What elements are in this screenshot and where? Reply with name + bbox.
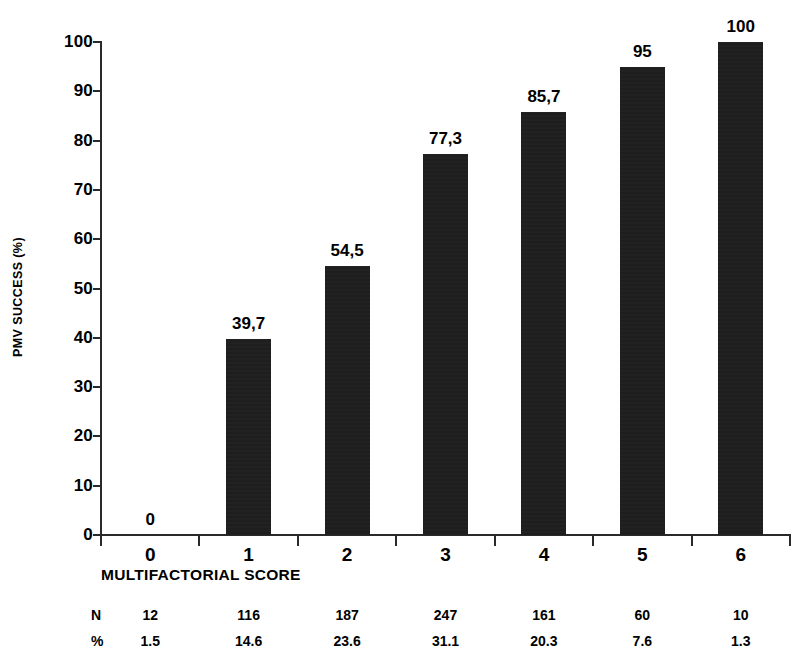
table-cell: 23.6 xyxy=(307,634,387,648)
y-axis-tick-mark xyxy=(93,140,101,142)
x-axis-tick-label: 1 xyxy=(209,545,289,564)
y-axis-tick-label-text: 20 xyxy=(47,427,93,444)
y-axis-tick-mark xyxy=(93,90,101,92)
bar xyxy=(718,42,763,535)
x-axis-tick-mark xyxy=(297,536,299,546)
y-axis-tick-mark xyxy=(93,435,101,437)
bar xyxy=(226,339,271,535)
y-axis-tick-mark xyxy=(93,41,101,43)
table-cell: 20.3 xyxy=(504,634,584,648)
y-axis-tick-label-text: 10 xyxy=(47,477,93,494)
table-row-label: % xyxy=(91,634,103,648)
table-cell: 60 xyxy=(602,608,682,622)
y-axis-tick-label-text: 60 xyxy=(47,230,93,247)
y-axis-tick-mark xyxy=(93,386,101,388)
bar xyxy=(620,67,665,535)
y-axis-tick-label-text: 70 xyxy=(47,181,93,198)
bar-value-label: 85,7 xyxy=(504,88,584,105)
y-axis-tick-label-text: 90 xyxy=(47,82,93,99)
y-axis-tick-label: 40 xyxy=(40,329,93,346)
table-cell: 31.1 xyxy=(406,634,486,648)
y-axis-tick-label-text: 100 xyxy=(47,33,93,50)
y-axis-tick-label: 60 xyxy=(40,230,93,247)
x-axis-tick-mark xyxy=(395,536,397,546)
bar-value-label: 39,7 xyxy=(209,315,289,332)
y-axis-tick-mark xyxy=(93,238,101,240)
y-axis-tick-label: 0 xyxy=(40,526,93,543)
x-axis-tick-label: 0 xyxy=(110,545,190,564)
table-cell: 187 xyxy=(307,608,387,622)
x-axis-tick-label: 4 xyxy=(504,545,584,564)
x-axis-tick-label: 2 xyxy=(307,545,387,564)
x-axis-tick-mark xyxy=(198,536,200,546)
y-axis-tick-label-text: 30 xyxy=(47,378,93,395)
bar-chart-figure: PMV SUCCESS (%) 0102030405060708090100 0… xyxy=(0,0,804,661)
y-axis-tick-label: 100 xyxy=(40,33,93,50)
table-cell: 1.5 xyxy=(110,634,190,648)
table-cell: 12 xyxy=(110,608,190,622)
y-axis-tick-mark xyxy=(93,189,101,191)
y-axis-tick-mark xyxy=(93,288,101,290)
bar xyxy=(521,112,566,535)
y-axis-tick-label-text: 50 xyxy=(47,280,93,297)
x-axis-title: MULTIFACTORIAL SCORE xyxy=(101,566,301,584)
bar-value-label: 100 xyxy=(701,18,781,35)
table-cell: 10 xyxy=(701,608,781,622)
table-cell: 116 xyxy=(209,608,289,622)
table-cell: 247 xyxy=(406,608,486,622)
x-axis-tick-mark xyxy=(592,536,594,546)
y-axis-tick-label: 50 xyxy=(40,280,93,297)
table-cell: 161 xyxy=(504,608,584,622)
x-axis-tick-label: 5 xyxy=(602,545,682,564)
y-axis-title: PMV SUCCESS (%) xyxy=(11,217,25,377)
y-axis-tick-mark xyxy=(93,337,101,339)
bar-value-label: 95 xyxy=(602,43,682,60)
x-axis-tick-mark xyxy=(691,536,693,546)
y-axis-tick-mark xyxy=(93,485,101,487)
table-cell: 14.6 xyxy=(209,634,289,648)
bar xyxy=(325,266,370,535)
y-axis-tick-label-text: 0 xyxy=(47,526,93,543)
bar-value-label: 0 xyxy=(110,511,190,528)
y-axis-tick-label: 30 xyxy=(40,378,93,395)
y-axis-tick-label: 90 xyxy=(40,82,93,99)
x-axis-tick-mark xyxy=(100,536,102,546)
x-axis-tick-mark xyxy=(789,536,791,546)
y-axis-tick-label: 80 xyxy=(40,132,93,149)
y-axis-tick-label: 20 xyxy=(40,427,93,444)
y-axis-tick-label: 10 xyxy=(40,477,93,494)
x-axis-tick-mark xyxy=(494,536,496,546)
bar-value-label: 54,5 xyxy=(307,242,387,259)
x-axis-tick-label: 6 xyxy=(701,545,781,564)
table-cell: 1.3 xyxy=(701,634,781,648)
bar xyxy=(423,154,468,535)
table-row-label: N xyxy=(91,608,101,622)
y-axis-tick-label-text: 40 xyxy=(47,329,93,346)
x-axis-tick-label: 3 xyxy=(406,545,486,564)
y-axis-tick-label-text: 80 xyxy=(47,132,93,149)
bar-value-label: 77,3 xyxy=(406,130,486,147)
y-axis-tick-label: 70 xyxy=(40,181,93,198)
table-cell: 7.6 xyxy=(602,634,682,648)
